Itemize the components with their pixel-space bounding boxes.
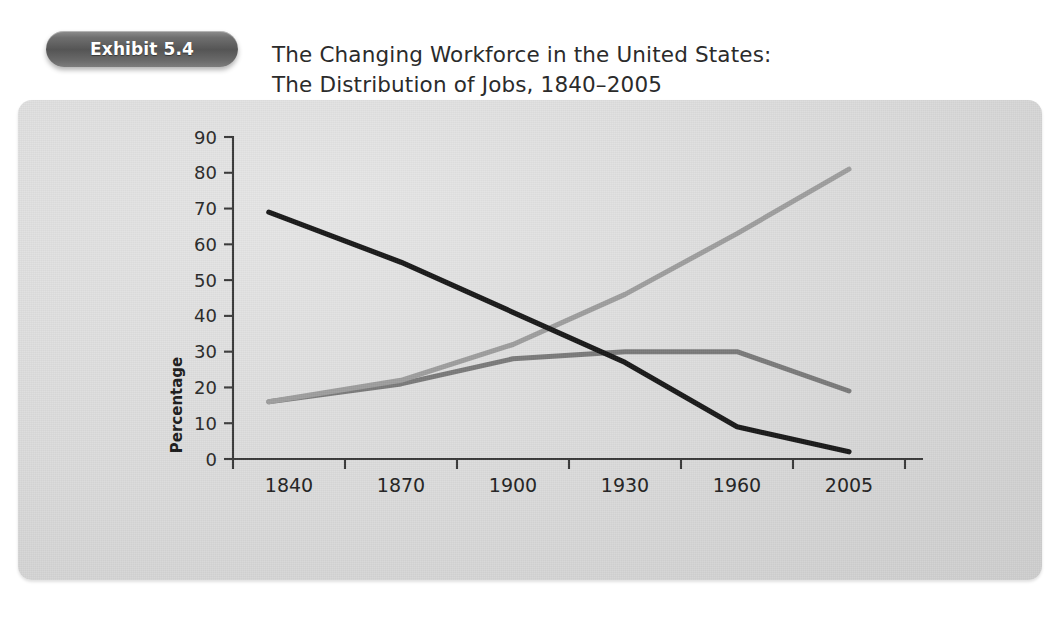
y-tick-label: 60 <box>194 234 217 255</box>
figure-panel: 0102030405060708090 Percentage 184018701… <box>18 100 1042 580</box>
x-tick-marks <box>233 459 905 469</box>
y-tick-label: 20 <box>194 377 217 398</box>
y-tick-label: 90 <box>194 127 217 148</box>
exhibit-badge-label: Exhibit 5.4 <box>90 39 194 59</box>
y-tick-label: 30 <box>194 341 217 362</box>
y-axis-tick-labels: 0102030405060708090 <box>194 127 217 470</box>
x-axis-tick-labels: 184018701900193019602005 <box>265 474 873 496</box>
series-line-service <box>269 169 849 402</box>
exhibit-badge: Exhibit 5.4 <box>46 31 238 67</box>
x-tick-label: 1930 <box>601 474 649 496</box>
x-tick-label: 1840 <box>265 474 313 496</box>
x-tick-label: 1900 <box>489 474 537 496</box>
page-title-line-1: The Changing Workforce in the United Sta… <box>272 40 771 70</box>
x-tick-label: 1870 <box>377 474 425 496</box>
y-tick-label: 40 <box>194 305 217 326</box>
chart-plot-area: 0102030405060708090 Percentage 184018701… <box>18 100 1042 580</box>
y-axis-title: Percentage <box>168 357 186 454</box>
x-tick-label: 1960 <box>713 474 761 496</box>
y-tick-label: 10 <box>194 413 217 434</box>
y-tick-label: 50 <box>194 270 217 291</box>
chart-series-group <box>269 169 849 452</box>
y-tick-label: 0 <box>206 449 217 470</box>
series-line-extractive <box>269 212 849 452</box>
line-chart: 0102030405060708090 Percentage 184018701… <box>18 100 1042 580</box>
page-title-line-2: The Distribution of Jobs, 1840–2005 <box>272 70 771 100</box>
page-title: The Changing Workforce in the United Sta… <box>272 40 771 100</box>
y-tick-label: 70 <box>194 198 217 219</box>
x-tick-label: 2005 <box>825 474 873 496</box>
series-line-manufacturing <box>269 352 849 402</box>
y-tick-label: 80 <box>194 162 217 183</box>
y-tick-marks <box>224 137 233 459</box>
